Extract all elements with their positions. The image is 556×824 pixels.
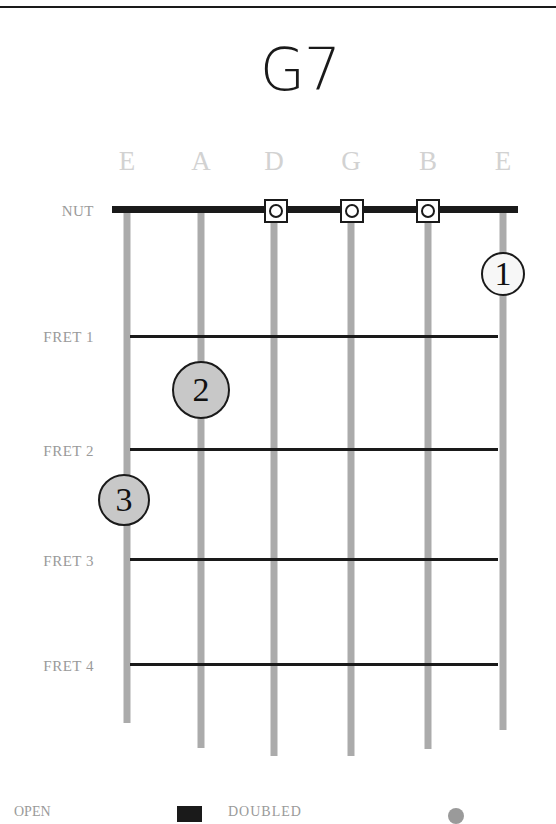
nut xyxy=(112,206,518,213)
string-g xyxy=(348,210,355,756)
string-b xyxy=(425,210,432,749)
legend-square-icon xyxy=(177,806,202,822)
legend: OPEN DOUBLED xyxy=(0,804,556,824)
fret-1 xyxy=(130,335,498,338)
string-name-low-e: E xyxy=(119,146,136,177)
fret-3 xyxy=(130,558,498,561)
legend-open-label: OPEN xyxy=(14,804,51,820)
open-marker-d xyxy=(264,199,288,223)
string-name-d: D xyxy=(264,146,284,177)
fret-label-1: FRET 1 xyxy=(0,329,94,346)
open-circle-icon xyxy=(421,204,435,218)
legend-circle-icon xyxy=(448,808,464,824)
finger-2-marker: 2 xyxy=(172,361,230,419)
finger-1-marker: 1 xyxy=(481,252,525,296)
fret-label-3: FRET 3 xyxy=(0,553,94,570)
string-name-g: G xyxy=(341,146,361,177)
finger-3-marker: 3 xyxy=(98,474,150,526)
open-circle-icon xyxy=(345,204,359,218)
open-marker-b xyxy=(416,199,440,223)
string-d xyxy=(271,210,278,756)
nut-label: NUT xyxy=(0,203,94,220)
legend-doubled-label: DOUBLED xyxy=(228,804,302,820)
string-a xyxy=(198,210,205,748)
open-marker-g xyxy=(340,199,364,223)
chord-title: G7 xyxy=(0,36,556,104)
fret-2 xyxy=(130,448,498,451)
string-low-e xyxy=(124,210,131,723)
open-circle-icon xyxy=(269,204,283,218)
fret-4 xyxy=(130,663,498,666)
fret-label-2: FRET 2 xyxy=(0,443,94,460)
string-name-high-e: E xyxy=(495,146,512,177)
string-name-b: B xyxy=(419,146,437,177)
top-rule xyxy=(0,6,556,8)
fret-label-4: FRET 4 xyxy=(0,658,94,675)
string-name-a: A xyxy=(191,146,211,177)
